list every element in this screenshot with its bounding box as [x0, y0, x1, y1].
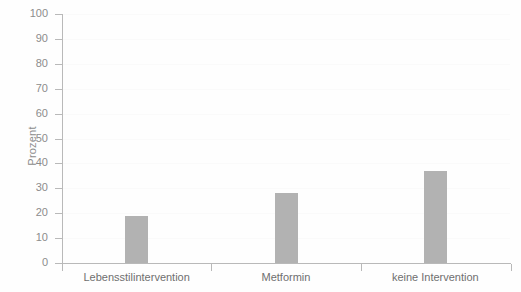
- y-axis-tick-label: 30: [8, 182, 48, 193]
- y-axis-tick-label: 70: [8, 83, 48, 94]
- gridline: [62, 39, 510, 40]
- bar-chart: Prozent 0102030405060708090100 Lebenssti…: [0, 0, 521, 292]
- y-axis-tick: [55, 89, 62, 90]
- y-axis-tick: [55, 188, 62, 189]
- gridline: [62, 64, 510, 65]
- y-axis-tick: [55, 213, 62, 214]
- gridline: [62, 89, 510, 90]
- y-axis-tick-label: 80: [8, 58, 48, 69]
- bar: [424, 171, 447, 263]
- y-axis-tick-label: 40: [8, 157, 48, 168]
- y-axis-tick: [55, 163, 62, 164]
- x-axis-category-label: keine Intervention: [361, 270, 510, 284]
- gridline: [62, 114, 510, 115]
- y-axis-tick-label: 10: [8, 232, 48, 243]
- bar: [275, 193, 298, 263]
- y-axis-tick-label: 50: [8, 133, 48, 144]
- y-axis-line: [62, 14, 63, 264]
- gridline: [62, 163, 510, 164]
- y-axis-tick: [55, 39, 62, 40]
- bar: [125, 216, 148, 263]
- gridline: [62, 14, 510, 15]
- y-axis-tick: [55, 263, 62, 264]
- plot-area: [62, 14, 510, 263]
- x-axis-line: [62, 263, 511, 264]
- y-axis-tick: [55, 114, 62, 115]
- y-axis-tick: [55, 139, 62, 140]
- x-axis-category-label: Lebensstilintervention: [62, 270, 211, 284]
- y-axis-tick-label: 0: [8, 257, 48, 268]
- x-axis-end-tick: [511, 264, 512, 271]
- y-axis-tick-label: 90: [8, 33, 48, 44]
- y-axis-tick: [55, 238, 62, 239]
- y-axis-tick-label: 60: [8, 108, 48, 119]
- y-axis-tick-label: 20: [8, 207, 48, 218]
- gridline: [62, 139, 510, 140]
- y-axis-tick: [55, 14, 62, 15]
- y-axis-tick: [55, 64, 62, 65]
- y-axis-tick-label: 100: [8, 8, 48, 19]
- x-axis-category-label: Metformin: [211, 270, 360, 284]
